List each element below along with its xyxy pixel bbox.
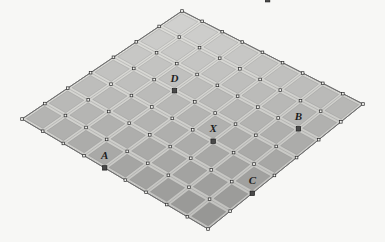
grid-node bbox=[218, 57, 221, 60]
grid-node bbox=[198, 46, 201, 49]
grid-node bbox=[221, 30, 224, 33]
grid-node bbox=[85, 126, 88, 129]
grid-node bbox=[253, 163, 256, 166]
grid-node bbox=[155, 51, 158, 54]
grid-node bbox=[83, 154, 86, 157]
grid-node bbox=[210, 169, 213, 172]
grid-node bbox=[153, 78, 156, 81]
grid-node bbox=[124, 179, 127, 182]
grid-node bbox=[188, 186, 191, 189]
grid-node bbox=[64, 114, 67, 117]
grid-node bbox=[110, 83, 113, 86]
grid-node bbox=[273, 174, 276, 177]
grid-node bbox=[194, 101, 197, 104]
grid-node bbox=[342, 92, 345, 95]
grid-node bbox=[135, 41, 138, 44]
grid-node bbox=[191, 128, 194, 131]
grid-node bbox=[158, 25, 161, 28]
grid-node bbox=[281, 61, 284, 64]
grid-node bbox=[277, 117, 280, 120]
grid-node bbox=[145, 191, 148, 194]
grid-node bbox=[126, 150, 129, 153]
diagram-canvas: A B C D E X bbox=[0, 0, 385, 242]
grid-node bbox=[229, 210, 232, 213]
point-marker-E[interactable] bbox=[265, 0, 269, 2]
grid-node bbox=[112, 56, 115, 59]
grid-node bbox=[148, 134, 151, 137]
grid-node bbox=[321, 82, 324, 85]
grid-node bbox=[201, 20, 204, 23]
isometric-grid bbox=[0, 0, 385, 242]
grid-node bbox=[241, 41, 244, 44]
grid-node bbox=[259, 78, 262, 81]
grid-node bbox=[130, 94, 133, 97]
grid-node bbox=[62, 142, 65, 145]
grid-node bbox=[178, 36, 181, 39]
grid-node bbox=[151, 106, 154, 109]
grid-node bbox=[165, 203, 168, 206]
grid-node bbox=[89, 71, 92, 74]
grid-node bbox=[196, 73, 199, 76]
grid-node bbox=[216, 84, 219, 87]
grid-node bbox=[214, 112, 217, 115]
grid-node bbox=[107, 110, 110, 113]
grid-node bbox=[232, 151, 235, 154]
grid-node bbox=[261, 51, 264, 54]
point-marker-A[interactable] bbox=[102, 166, 106, 170]
grid-node bbox=[340, 121, 343, 124]
grid-node bbox=[189, 157, 192, 160]
grid-node bbox=[207, 228, 210, 231]
grid-node bbox=[295, 156, 298, 159]
grid-node bbox=[169, 145, 172, 148]
grid-node bbox=[257, 106, 260, 109]
grid-node bbox=[319, 110, 322, 113]
point-marker-D[interactable] bbox=[172, 89, 176, 93]
grid-node bbox=[275, 145, 278, 148]
grid-node bbox=[230, 180, 233, 183]
grid-node bbox=[186, 215, 189, 218]
grid-node bbox=[301, 72, 304, 75]
grid-node bbox=[44, 102, 47, 105]
grid-node bbox=[171, 117, 174, 120]
grid-node bbox=[236, 95, 239, 98]
grid-node bbox=[299, 99, 302, 102]
grid-node bbox=[255, 134, 258, 137]
grid-node bbox=[362, 103, 365, 106]
point-marker-B[interactable] bbox=[296, 127, 300, 131]
grid-node bbox=[41, 130, 44, 133]
grid-node bbox=[128, 122, 131, 125]
grid-node bbox=[167, 174, 170, 177]
grid-node bbox=[132, 67, 135, 70]
grid-node bbox=[176, 62, 179, 65]
point-marker-C[interactable] bbox=[250, 191, 254, 195]
grid-node bbox=[279, 89, 282, 92]
grid-node bbox=[87, 99, 90, 102]
grid-node bbox=[317, 138, 320, 141]
grid-node bbox=[181, 10, 184, 13]
grid-node bbox=[239, 68, 242, 71]
grid-node bbox=[208, 198, 211, 201]
point-marker-X[interactable] bbox=[211, 139, 215, 143]
grid-node bbox=[66, 87, 69, 90]
grid-node bbox=[146, 162, 149, 165]
grid-node bbox=[105, 138, 108, 141]
grid-node bbox=[234, 123, 237, 126]
grid-node bbox=[21, 118, 24, 121]
